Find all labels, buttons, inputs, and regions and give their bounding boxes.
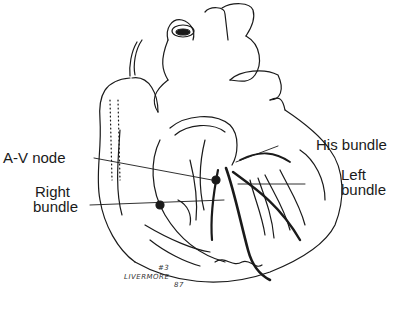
label-left-bundle-line2: bundle xyxy=(341,182,386,198)
signature-year: 87 xyxy=(174,281,184,289)
heart-diagram: A-V node Right bundle His bundle Left bu… xyxy=(0,0,407,310)
label-right-bundle-line2: bundle xyxy=(33,199,78,215)
signature-name: LIVERMORE xyxy=(124,273,169,281)
label-av-node: A-V node xyxy=(3,150,66,166)
signature-mark: #3 xyxy=(158,264,169,272)
label-his-bundle: His bundle xyxy=(316,137,387,153)
